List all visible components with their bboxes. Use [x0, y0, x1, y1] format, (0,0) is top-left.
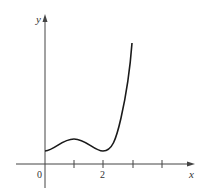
function-graph: y x 0 2: [0, 0, 200, 195]
y-axis-label: y: [35, 13, 41, 25]
x-axis-arrow-icon: [187, 162, 195, 167]
x-axis-label: x: [188, 168, 194, 180]
y-axis-arrow-icon: [43, 14, 48, 22]
function-curve: [45, 43, 132, 151]
origin-label: 0: [37, 169, 42, 180]
x-tick-label-2: 2: [100, 169, 105, 180]
